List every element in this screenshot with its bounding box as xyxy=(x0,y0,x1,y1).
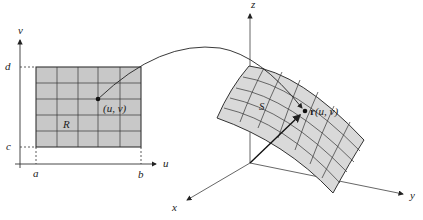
domain-plane: v u d c a b R (u, v) xyxy=(5,24,169,180)
r-vector-args: (u, v) xyxy=(315,105,339,118)
parametric-surface-diagram: v u d c a b R (u, v) z y x xyxy=(0,0,423,220)
z-axis-label: z xyxy=(250,0,256,10)
surface-label: S xyxy=(259,100,265,112)
surface-space: z y x S r(u, v) xyxy=(171,0,415,213)
u-axis-label: u xyxy=(163,157,169,169)
y-axis-label: y xyxy=(409,189,415,201)
diagram-canvas: v u d c a b R (u, v) z y x xyxy=(0,0,423,220)
bound-a-label: a xyxy=(33,167,39,179)
bound-d-label: d xyxy=(5,60,11,72)
surface-point xyxy=(303,109,308,114)
v-axis-label: v xyxy=(18,24,23,36)
x-axis xyxy=(187,163,250,200)
surface-s xyxy=(217,66,364,193)
domain-point-label: (u, v) xyxy=(103,102,127,115)
bound-b-label: b xyxy=(138,168,144,180)
x-axis-label: x xyxy=(171,201,177,213)
bound-c-label: c xyxy=(6,140,11,152)
surface-point-label: r(u, v) xyxy=(310,105,338,118)
region-label: R xyxy=(62,118,70,130)
